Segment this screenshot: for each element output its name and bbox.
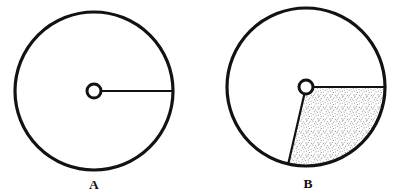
circle-b-hub: [299, 80, 313, 94]
circle-a-hub: [87, 84, 101, 98]
figure-container: A B: [0, 0, 393, 195]
panel-a-label: A: [89, 177, 99, 192]
panel-a: A: [15, 12, 173, 192]
panel-b: B: [227, 8, 385, 191]
panel-b-label: B: [303, 176, 312, 191]
figure-svg: A B: [0, 0, 393, 195]
